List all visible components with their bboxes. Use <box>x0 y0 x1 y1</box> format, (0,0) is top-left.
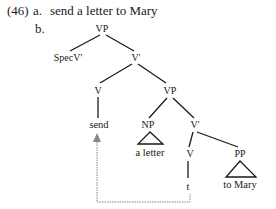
leaf-a-letter: a letter <box>136 148 165 159</box>
arrowhead-icon <box>93 133 101 142</box>
leaf-trace: t <box>187 182 190 193</box>
tree-branches <box>0 0 276 209</box>
node-vbar-2: V' <box>190 120 199 130</box>
leaf-send: send <box>89 120 108 131</box>
node-vp-root: VP <box>96 24 109 34</box>
node-v-2: V <box>186 149 193 159</box>
leaf-to-mary: to Mary <box>223 180 257 191</box>
node-np: NP <box>142 120 155 130</box>
node-v-1: V <box>94 86 101 96</box>
node-vp-2: VP <box>164 86 177 96</box>
node-vbar-1: V' <box>131 53 140 63</box>
node-pp: PP <box>234 149 245 159</box>
node-spec: SpecV' <box>54 53 82 63</box>
